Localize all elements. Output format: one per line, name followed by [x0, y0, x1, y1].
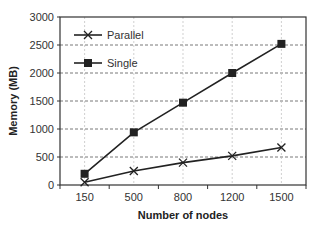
square-marker [81, 170, 89, 178]
y-axis-label: Memory (MB) [7, 66, 19, 136]
x-tick-label: 1200 [220, 191, 244, 203]
y-tick-label: 500 [36, 151, 54, 163]
y-tick-label: 1500 [30, 95, 54, 107]
square-marker [277, 40, 285, 48]
x-tick-label: 800 [174, 191, 192, 203]
square-marker [228, 69, 236, 77]
y-tick-label: 1000 [30, 123, 54, 135]
y-tick-label: 2500 [30, 39, 54, 51]
y-axis-ticks: 050010001500200025003000 [30, 11, 60, 191]
y-tick-label: 3000 [30, 11, 54, 23]
square-marker [179, 99, 187, 107]
legend-item-parallel: Parallel [74, 29, 144, 41]
x-axis-ticks: 15050080012001500 [60, 185, 306, 203]
x-tick-label: 1500 [269, 191, 293, 203]
square-marker [84, 59, 92, 67]
y-tick-label: 2000 [30, 67, 54, 79]
x-axis-label: Number of nodes [138, 209, 228, 221]
x-tick-label: 500 [125, 191, 143, 203]
legend-label: Single [107, 57, 138, 69]
line-chart: 050010001500200025003000 150500800120015… [0, 0, 320, 227]
legend-item-single: Single [74, 57, 138, 69]
y-tick-label: 0 [48, 179, 54, 191]
square-marker [130, 128, 138, 136]
x-tick-label: 150 [75, 191, 93, 203]
legend-label: Parallel [107, 29, 144, 41]
